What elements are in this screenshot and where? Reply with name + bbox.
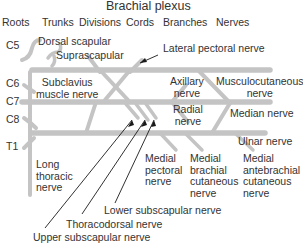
label-suprascapular: Suprascapular (56, 50, 124, 62)
label-subclavius-muscle-nerve: Subclavius muscle nerve (36, 77, 98, 100)
label-dorsal-scapular: Dorsal scapular (38, 36, 111, 48)
header-cords: Cords (126, 17, 154, 29)
brachial-plexus-diagram: Brachial plexus Roots Trunks Divisions C… (0, 0, 303, 250)
label-axillary-nerve: Axillary nerve (170, 76, 204, 99)
root-c7: C7 (6, 96, 19, 108)
label-median-nerve: Median nerve (230, 108, 294, 120)
header-divisions: Divisions (79, 17, 121, 29)
label-lower-subscapular-nerve: Lower subscapular nerve (104, 205, 221, 217)
label-ulnar-nerve: Ulnar nerve (238, 136, 292, 148)
header-branches: Branches (163, 17, 207, 29)
label-radial-nerve: Radial nerve (173, 104, 203, 127)
header-nerves: Nerves (216, 17, 249, 29)
label-long-thoracic-nerve: Long thoracic nerve (36, 159, 73, 194)
label-medial-pectoral-nerve: Medial pectoral nerve (145, 153, 182, 188)
label-medial-brachial-cutaneous-nerve: Medial brachial cutaneous nerve (190, 153, 238, 199)
label-medial-antebrachial-cutaneous-nerve: Medial antebrachial cutaneous nerve (243, 153, 300, 199)
root-t1: T1 (6, 141, 18, 153)
header-trunks: Trunks (42, 17, 74, 29)
root-c5: C5 (6, 40, 19, 52)
header-roots: Roots (2, 17, 29, 29)
label-thoracodorsal-nerve: Thoracodorsal nerve (66, 219, 162, 231)
label-upper-subscapular-nerve: Upper subscapular nerve (33, 232, 150, 244)
diagram-title: Brachial plexus (106, 1, 191, 13)
label-lateral-pectoral: Lateral pectoral nerve (163, 43, 265, 55)
label-musculocutaneous-nerve: Musculocutaneous nerve (216, 76, 303, 99)
root-c6: C6 (6, 78, 19, 90)
root-c8: C8 (6, 114, 19, 126)
